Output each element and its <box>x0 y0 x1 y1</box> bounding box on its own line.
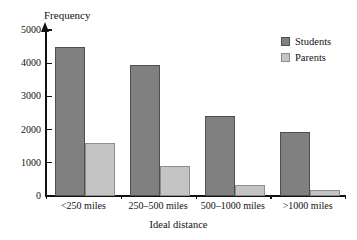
bar-chart: Frequency 010002000300040005000 <250 mil… <box>0 0 357 240</box>
bar-students-3 <box>280 132 310 196</box>
x-axis-tick <box>46 195 47 199</box>
legend-swatch-icon <box>281 53 290 62</box>
bar-students-1 <box>130 65 160 196</box>
x-axis-category-label: >1000 miles <box>262 200 353 211</box>
y-axis-tick-label-wrap: 3000 <box>3 91 41 101</box>
y-axis-tick-label-wrap: 4000 <box>3 58 41 68</box>
legend-label: Students <box>295 36 331 47</box>
y-axis-tick-label: 4000 <box>7 58 41 68</box>
x-axis-tick <box>121 195 122 199</box>
y-axis-tick-label: 0 <box>7 191 41 201</box>
y-axis-tick-label-wrap: 1000 <box>3 158 41 168</box>
y-axis-tick-label-wrap: 2000 <box>3 125 41 135</box>
bar-students-0 <box>55 47 85 196</box>
legend-item-students: Students <box>281 34 331 48</box>
chart-legend: StudentsParents <box>281 34 331 66</box>
x-axis-tick <box>345 195 346 199</box>
y-axis-tick-label: 3000 <box>7 91 41 101</box>
x-axis-tick <box>270 195 271 199</box>
y-axis-title: Frequency <box>44 9 90 21</box>
y-axis-tick-label: 5000 <box>7 25 41 35</box>
legend-item-parents: Parents <box>281 50 331 64</box>
legend-swatch-icon <box>281 37 290 46</box>
y-axis-tick-label: 2000 <box>7 125 41 135</box>
bar-parents-1 <box>160 166 190 196</box>
x-axis-tick <box>196 195 197 199</box>
y-axis-tick-label-wrap: 5000 <box>3 25 41 35</box>
bar-parents-3 <box>310 190 340 196</box>
legend-label: Parents <box>295 52 326 63</box>
bar-parents-0 <box>85 143 115 196</box>
y-axis-tick-label: 1000 <box>7 158 41 168</box>
x-axis-title: Ideal distance <box>0 219 357 231</box>
bar-students-2 <box>205 116 235 196</box>
y-axis-tick-label-wrap: 0 <box>3 191 41 201</box>
bar-parents-2 <box>235 185 265 196</box>
